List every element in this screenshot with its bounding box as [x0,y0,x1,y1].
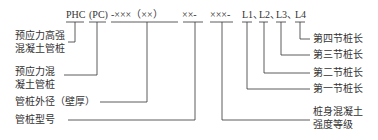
label-l3: 第三节桩长 [313,49,363,61]
label-l1: 第一节桩长 [313,83,363,95]
label-phc-line1: 预应力高强 [15,30,65,42]
label-grade-line2: 强度等级 [313,119,353,131]
label-type: 管桩型号 [15,114,55,126]
label-l4: 第四节桩长 [313,33,363,45]
label-pc-line2: 凝土管桩 [15,79,55,91]
label-diameter: 管桩外径（壁厚） [15,96,95,108]
label-l2: 第二节桩长 [313,67,363,79]
label-pc-line1: 预应力混 [15,66,55,78]
label-phc-line2: 混凝土管桩 [15,43,65,55]
label-grade-line1: 桩身混凝土 [313,106,363,118]
